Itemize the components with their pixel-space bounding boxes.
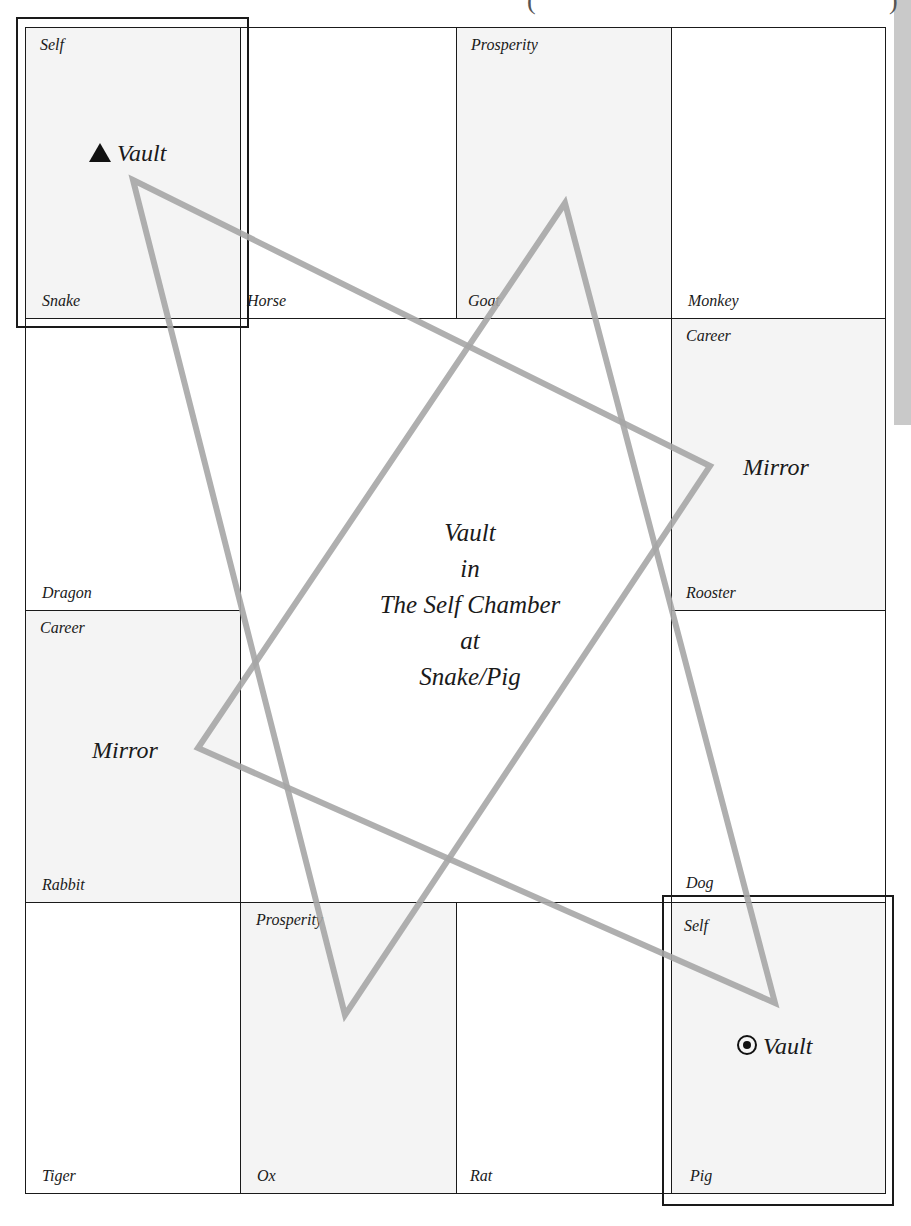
animal-label: Goat: [468, 292, 500, 310]
cell-rabbit: Career Mirror Rabbit: [25, 610, 241, 903]
cell-snake: Self Snake: [25, 27, 241, 319]
animal-label: Pig: [690, 1167, 712, 1185]
cell-tiger: Tiger: [25, 902, 241, 1194]
center-line: The Self Chamber: [340, 587, 600, 623]
cell-rat: Rat: [456, 902, 672, 1194]
cell-goat: Prosperity Goat: [456, 27, 672, 319]
clipped-parenthesis-right: ): [889, 0, 898, 16]
chamber-label: Self: [40, 36, 64, 54]
mirror-label: Mirror: [743, 454, 809, 481]
vault-label: Vault: [117, 140, 166, 166]
animal-label: Ox: [257, 1167, 276, 1185]
animal-label: Tiger: [42, 1167, 76, 1185]
animal-label: Monkey: [688, 292, 739, 310]
triangle-icon: [89, 143, 111, 162]
pig-vault-marker: Vault: [737, 1033, 812, 1060]
cell-ox: Prosperity Ox: [240, 902, 457, 1194]
animal-label: Rabbit: [42, 876, 85, 894]
animal-label: Dragon: [42, 584, 92, 602]
animal-label: Rat: [470, 1167, 492, 1185]
snake-vault-marker: Vault: [89, 140, 166, 167]
vault-label: Vault: [763, 1033, 812, 1059]
chamber-label: Career: [686, 327, 731, 345]
animal-label: Dog: [686, 874, 714, 892]
center-line: in: [340, 551, 600, 587]
center-line: Vault: [340, 515, 600, 551]
cell-horse: Horse: [240, 27, 457, 319]
cell-dragon: Dragon: [25, 318, 241, 611]
cell-dog: Dog: [671, 610, 886, 903]
animal-label: Rooster: [686, 584, 736, 602]
clipped-parenthesis-left: (: [527, 0, 536, 16]
chamber-label: Prosperity: [256, 911, 323, 929]
animal-label: Snake: [42, 292, 80, 310]
cell-rooster: Career Mirror Rooster: [671, 318, 886, 611]
center-line: at: [340, 623, 600, 659]
chamber-label: Career: [40, 619, 85, 637]
center-line: Snake/Pig: [340, 659, 600, 695]
mirror-label: Mirror: [92, 737, 158, 764]
bullseye-icon: [737, 1035, 757, 1055]
page-edge-strip: [894, 0, 911, 425]
animal-label: Horse: [247, 292, 286, 310]
cell-monkey: Monkey: [671, 27, 886, 319]
center-caption: Vault in The Self Chamber at Snake/Pig: [340, 515, 600, 695]
chamber-label: Self: [684, 917, 708, 935]
chamber-label: Prosperity: [471, 36, 538, 54]
